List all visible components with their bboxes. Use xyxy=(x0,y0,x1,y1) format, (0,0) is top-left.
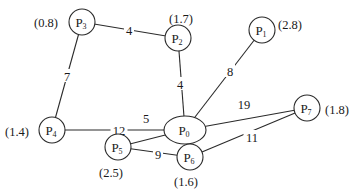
edge-weight-label: 4 xyxy=(126,24,133,38)
edge-weight-label: 4 xyxy=(177,78,184,92)
edge-line xyxy=(185,30,262,130)
node-value-label: (0.8) xyxy=(34,16,58,30)
edge-weight-label: 8 xyxy=(227,65,233,79)
node-value-label: (2.5) xyxy=(99,166,123,180)
node-p4: P4(1.4) xyxy=(5,117,65,143)
node-value-label: (2.8) xyxy=(278,18,302,32)
edge-weight-label: 5 xyxy=(143,112,149,126)
node-p2: P2(1.7) xyxy=(165,12,193,52)
graph-diagram: 474812195911 P0P1(2.8)P2(1.7)P3(0.8)P4(1… xyxy=(0,0,354,196)
edge-p6-p7: 11 xyxy=(190,108,307,157)
edge-p3-p4: 7 xyxy=(52,22,82,130)
edge-weight-label: 7 xyxy=(64,70,70,84)
node-value-label: (1.4) xyxy=(5,125,29,139)
edge-weight-label: 11 xyxy=(246,131,258,145)
node-p3: P3(0.8) xyxy=(34,9,95,35)
nodes-layer: P0P1(2.8)P2(1.7)P3(0.8)P4(1.4)P5(2.5)P6(… xyxy=(5,9,349,189)
node-p5: P5(2.5) xyxy=(99,134,131,180)
edge-weight-label: 19 xyxy=(238,98,251,112)
edge-p1-p0: 8 xyxy=(185,30,262,130)
node-p1: P1(2.8) xyxy=(249,17,302,43)
node-value-label: (1.7) xyxy=(169,12,193,26)
node-p0: P0 xyxy=(164,116,206,144)
edge-p3-p2: 4 xyxy=(82,22,178,38)
node-value-label: (1.8) xyxy=(325,103,349,117)
node-value-label: (1.6) xyxy=(174,175,198,189)
node-p7: P7(1.8) xyxy=(294,95,349,121)
node-p6: P6(1.6) xyxy=(174,144,203,189)
edge-weight-label: 9 xyxy=(155,148,161,162)
